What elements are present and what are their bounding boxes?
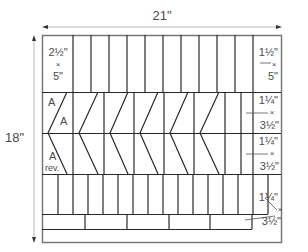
- lower-chevron-right-width: 1¼": [259, 135, 278, 147]
- top-right-height: 5": [268, 70, 278, 82]
- top-right-x: ×: [272, 60, 277, 69]
- top-left-x: ×: [56, 60, 61, 69]
- top-left-width: 2½": [48, 46, 67, 58]
- arrow-down-icon: [32, 237, 36, 243]
- bottom-strip-width: 1¼": [259, 191, 278, 203]
- height-label: 18": [5, 130, 24, 145]
- lower-chevron-right-x: ×: [270, 149, 275, 158]
- quilt-layout-diagram: 21" 18": [0, 0, 308, 252]
- patch-a-label: A: [48, 96, 56, 108]
- arrow-right-icon: [276, 25, 282, 29]
- top-left-height: 5": [53, 70, 63, 82]
- upper-chevron-right-width: 1¼": [259, 94, 278, 106]
- lower-chevron-right-height: 3½": [260, 160, 279, 172]
- top-right-width: 1½": [259, 46, 278, 58]
- rev-label: rev.: [45, 163, 59, 173]
- width-dimension: 21": [42, 8, 282, 29]
- quilt-outer-border: [43, 36, 282, 243]
- height-dimension: 18": [5, 35, 36, 243]
- patch-a-rev-label: A: [49, 150, 57, 162]
- upper-chevron-right-height: 3½": [260, 119, 279, 131]
- patch-a2-label: A: [60, 115, 68, 127]
- bottom-strip-x: ×: [278, 205, 283, 214]
- upper-chevron-right-x: ×: [270, 108, 275, 117]
- width-label: 21": [152, 8, 171, 23]
- bottom-strip-height: 3½": [262, 215, 281, 227]
- arrow-up-icon: [32, 35, 36, 41]
- arrow-left-icon: [42, 25, 48, 29]
